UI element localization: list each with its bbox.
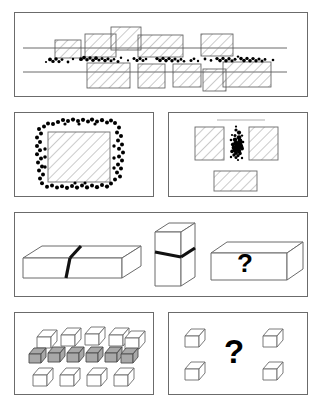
house-top-right (263, 329, 283, 347)
long-split-bar (23, 246, 141, 278)
house-row-top (37, 327, 145, 349)
dot-cluster (230, 126, 245, 162)
hatched-square (48, 132, 110, 182)
question-bar (211, 242, 303, 280)
panel-a-canvas (15, 13, 307, 96)
panel-four-houses-question: ? (168, 312, 308, 395)
question-mark-houses: ? (224, 335, 244, 368)
panel-split-bar-cube-question-bar: ? (14, 212, 308, 297)
panel-d-canvas (15, 213, 307, 296)
panel-c-canvas (169, 113, 307, 196)
left-rect (195, 127, 224, 160)
hatched-rectangles (195, 127, 278, 191)
house-bottom-left (185, 362, 205, 380)
blocks-above-road (55, 27, 233, 58)
house-row-middle-gray (29, 347, 138, 363)
question-mark-bar: ? (237, 250, 253, 276)
figure-root: ? (0, 0, 322, 410)
panel-house-array-gray-row (14, 312, 154, 395)
panel-dots-cluster-between-rectangles (168, 112, 308, 197)
house-row-bottom (33, 368, 134, 386)
tall-split-block (155, 223, 195, 286)
house-bottom-right (263, 362, 283, 380)
panel-road-blocks-dots (14, 12, 308, 97)
blocks-below-road (87, 62, 271, 91)
house-top-left (185, 329, 205, 347)
right-rect (249, 127, 278, 160)
panel-dots-ring-around-square (14, 112, 154, 197)
bottom-rect (214, 171, 257, 191)
panel-b-canvas (15, 113, 153, 196)
panel-e-canvas (15, 313, 153, 394)
